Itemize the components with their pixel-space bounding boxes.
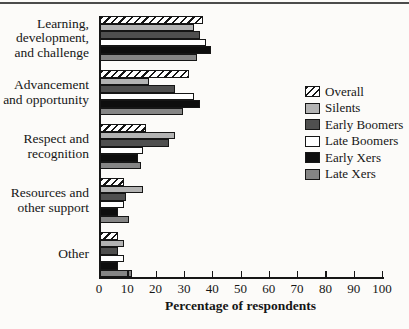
legend-label-late-xers: Late Xers (325, 166, 376, 182)
x-tick-label: 60 (262, 281, 275, 297)
bar-silents (101, 186, 143, 194)
legend-swatch-overall (305, 86, 320, 97)
x-tick-label: 40 (206, 281, 219, 297)
legend-label-early-boomers: Early Boomers (325, 117, 403, 133)
bar-early-boomers (101, 31, 200, 39)
bar-late-xers (101, 216, 129, 224)
legend-item-late-xers: Late Xers (305, 169, 403, 181)
bar-overall (101, 124, 146, 132)
bar-chart-figure: Learning,development,and challengeAdvanc… (0, 0, 409, 329)
legend-label-late-boomers: Late Boomers (325, 133, 398, 149)
bar-overall (101, 232, 118, 240)
legend-swatch-silents (305, 103, 320, 114)
bar-late-boomers (101, 201, 124, 209)
x-tick-label: 100 (372, 281, 392, 297)
category-label-respect-and-recognition: Respect andrecognition (0, 124, 94, 169)
category-label-resources-and-other-support: Resources andother support (0, 178, 94, 223)
legend-swatch-late-boomers (305, 136, 320, 147)
bar-silents (101, 78, 149, 86)
bar-late-boomers (101, 93, 194, 101)
category-label-advancement-and-opportunity: Advancementand opportunity (0, 70, 94, 115)
x-tick-label: 50 (234, 281, 247, 297)
legend-swatch-early-xers (305, 152, 320, 163)
bar-silents (101, 24, 194, 32)
bar-overall (101, 178, 124, 186)
category-labels: Learning,development,and challengeAdvanc… (0, 16, 94, 277)
x-axis-title: Percentage of respondents (99, 298, 382, 314)
bar-silents (101, 240, 124, 248)
bar-late-boomers (101, 147, 143, 155)
x-tick-label: 20 (149, 281, 162, 297)
category-label-other: Other (0, 232, 94, 277)
legend-label-early-xers: Early Xers (325, 150, 381, 166)
bar-late-xers (101, 108, 183, 116)
x-tick-label: 80 (319, 281, 332, 297)
bar-early-boomers (101, 85, 175, 93)
bar-late-boomers (101, 255, 124, 263)
legend-item-silents: Silents (305, 103, 403, 115)
legend-swatch-late-xers (305, 169, 320, 180)
bar-silents (101, 132, 175, 140)
bar-late-xers (101, 270, 132, 278)
top-rule-divider (0, 2, 409, 4)
x-tick-label: 30 (177, 281, 190, 297)
legend-label-overall: Overall (325, 84, 364, 100)
legend-item-overall: Overall (305, 86, 403, 98)
category-label-learning-development-and-challenge: Learning,development,and challenge (0, 16, 94, 61)
bar-late-boomers (101, 39, 206, 47)
bar-overall (101, 16, 203, 24)
x-tick-label: 10 (121, 281, 134, 297)
x-axis-tick-labels: 0102030405060708090100 (99, 281, 382, 295)
legend-swatch-early-boomers (305, 119, 320, 130)
bar-early-boomers (101, 139, 169, 147)
x-tick-label: 0 (96, 281, 103, 297)
legend-item-early-xers: Early Xers (305, 152, 403, 164)
x-tick-label: 90 (347, 281, 360, 297)
bar-early-xers (101, 208, 118, 216)
bar-late-xers (101, 162, 141, 170)
x-tick-label: 70 (291, 281, 304, 297)
bar-group-learning-development-and-challenge (101, 16, 384, 61)
bar-early-xers (101, 262, 118, 270)
bar-overall (101, 70, 189, 78)
bar-late-xers (101, 54, 197, 62)
bar-early-xers (101, 100, 200, 108)
bar-early-boomers (101, 193, 126, 201)
legend-item-early-boomers: Early Boomers (305, 119, 403, 131)
legend: OverallSilentsEarly BoomersLate BoomersE… (305, 86, 403, 185)
bar-early-xers (101, 154, 138, 162)
legend-label-silents: Silents (325, 100, 360, 116)
bar-early-xers (101, 46, 211, 54)
legend-item-late-boomers: Late Boomers (305, 136, 403, 148)
bar-group-other (101, 232, 384, 277)
bar-early-boomers (101, 247, 118, 255)
